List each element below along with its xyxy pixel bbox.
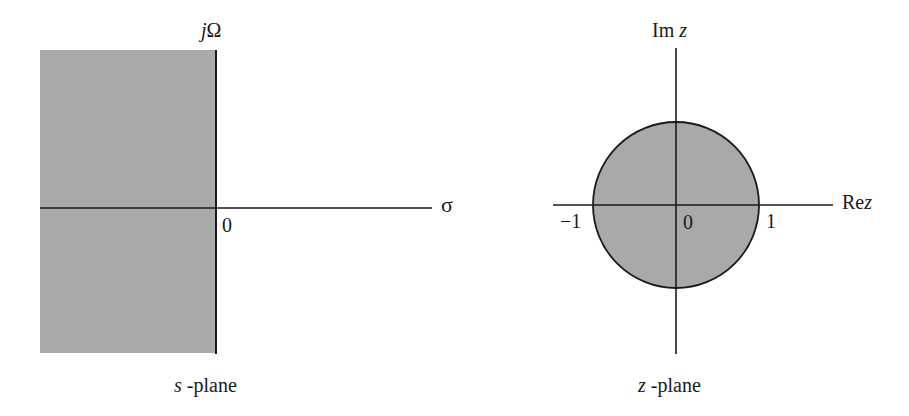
s-plane-caption: s -plane [174, 375, 237, 395]
s-variable: s [174, 374, 182, 396]
omega-symbol: Ω [207, 19, 222, 41]
z-variable: z [638, 374, 646, 396]
z-variable: z [679, 19, 687, 41]
re-prefix: Re [842, 191, 864, 213]
z-plane-tick-pos-one: 1 [766, 211, 776, 231]
diagram-canvas [0, 0, 909, 416]
s-plane-shaded-region [40, 50, 216, 353]
z-plane-re-label: Rez [842, 192, 872, 212]
z-variable: z [864, 191, 872, 213]
s-plane-j-omega-label: jΩ [201, 20, 221, 40]
caption-suffix: -plane [182, 374, 237, 396]
im-prefix: Im [652, 19, 679, 41]
caption-suffix: -plane [646, 374, 701, 396]
s-plane-sigma-label: σ [441, 194, 453, 216]
s-plane-origin-label: 0 [222, 215, 232, 235]
z-plane-caption: z -plane [638, 375, 701, 395]
z-plane-im-label: Im z [652, 20, 687, 40]
z-plane-tick-neg-one: −1 [560, 211, 581, 231]
z-plane-origin-label: 0 [683, 212, 693, 232]
